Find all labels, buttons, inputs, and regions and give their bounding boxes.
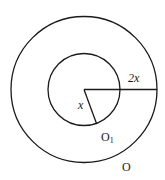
inner-circle-label-name: O	[101, 130, 110, 144]
concentric-circles-diagram: 2x x O1 O	[0, 0, 165, 180]
inner-radius-label: x	[77, 98, 84, 112]
inner-radius-line	[84, 90, 97, 124]
inner-circle-label-subscript: 1	[110, 136, 114, 145]
inner-circle-label: O1	[101, 130, 114, 145]
outer-radius-label: 2x	[128, 71, 140, 85]
outer-circle-label: O	[122, 160, 131, 174]
